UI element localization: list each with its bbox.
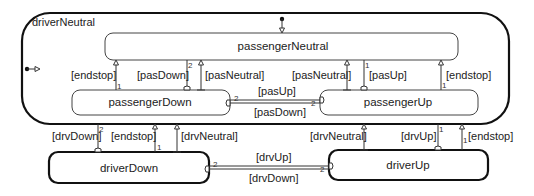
svg-text:[pasNeutral]: [pasNeutral]: [205, 69, 264, 81]
state-passenger-neutral: passengerNeutral: [105, 33, 458, 60]
state-driver-down-label: driverDown: [100, 162, 158, 174]
svg-text:[pasDown]: [pasDown]: [254, 106, 306, 118]
transition-du-dn-endstop: [endstop] 1: [460, 124, 514, 150]
state-passenger-down: passengerDown: [72, 90, 230, 115]
svg-text:[pasUp]: [pasUp]: [258, 85, 296, 97]
svg-text:[drvDown]: [drvDown]: [52, 130, 102, 142]
svg-text:2: 2: [320, 165, 325, 174]
svg-text:[drvDown]: [drvDown]: [249, 172, 299, 184]
svg-text:[endstop]: [endstop]: [468, 130, 513, 142]
state-passenger-down-label: passengerDown: [108, 96, 191, 108]
svg-text:[drvNeutral]: [drvNeutral]: [310, 130, 367, 142]
state-driver-down: driverDown: [49, 152, 209, 183]
svg-text:2: 2: [311, 99, 316, 108]
state-driver-up: driverUp: [329, 150, 488, 180]
state-driver-neutral-label: driverNeutral: [32, 16, 95, 28]
svg-text:[pasNeutral]: [pasNeutral]: [292, 69, 351, 81]
statechart-diagram: driverNeutral passengerNeutral passenger…: [0, 0, 534, 196]
transition-dd-dn-drvneutral: [drvNeutral]: [173, 124, 238, 152]
svg-text:[endstop]: [endstop]: [446, 69, 491, 81]
state-passenger-up: passengerUp: [320, 90, 478, 115]
svg-text:2: 2: [213, 160, 218, 169]
svg-text:[drvNeutral]: [drvNeutral]: [181, 130, 238, 142]
svg-text:[drvUp]: [drvUp]: [256, 151, 291, 163]
transition-dn-dd-drvdown: [drvDown] 2: [52, 124, 104, 152]
svg-text:[pasDown]: [pasDown]: [137, 69, 189, 81]
svg-text:1: 1: [439, 125, 444, 134]
svg-text:1: 1: [365, 61, 370, 70]
transition-du-dd-drvdown: [drvDown] 2: [205, 165, 329, 184]
svg-text:2: 2: [99, 125, 104, 134]
svg-text:2: 2: [234, 94, 239, 103]
transition-dn-du-drvup: [drvUp] 1: [401, 124, 444, 150]
svg-text:1: 1: [157, 143, 162, 152]
svg-text:1: 1: [442, 81, 447, 90]
svg-text:[pasUp]: [pasUp]: [369, 69, 407, 81]
svg-text:1: 1: [463, 136, 468, 145]
state-passenger-up-label: passengerUp: [364, 96, 432, 108]
svg-text:[endstop]: [endstop]: [111, 130, 156, 142]
transition-du-dn-drvneutral: [drvNeutral]: [310, 124, 368, 150]
state-driver-up-label: driverUp: [386, 159, 429, 171]
state-passenger-neutral-label: passengerNeutral: [238, 40, 329, 52]
svg-text:[endstop]: [endstop]: [71, 69, 116, 81]
svg-text:2: 2: [188, 61, 193, 70]
transition-dd-du-drvup: [drvUp] 2: [209, 151, 333, 169]
svg-text:[drvUp]: [drvUp]: [401, 130, 436, 142]
transition-dd-dn-endstop: [endstop] 1: [111, 124, 162, 152]
svg-text:1: 1: [117, 82, 122, 91]
